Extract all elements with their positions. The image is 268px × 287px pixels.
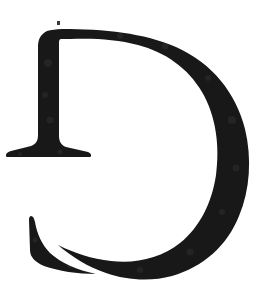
dust-speck <box>57 21 60 25</box>
letterform-svg: Letterform specimen <box>0 0 268 287</box>
glyph-canvas: Letterform specimen <box>0 0 268 287</box>
